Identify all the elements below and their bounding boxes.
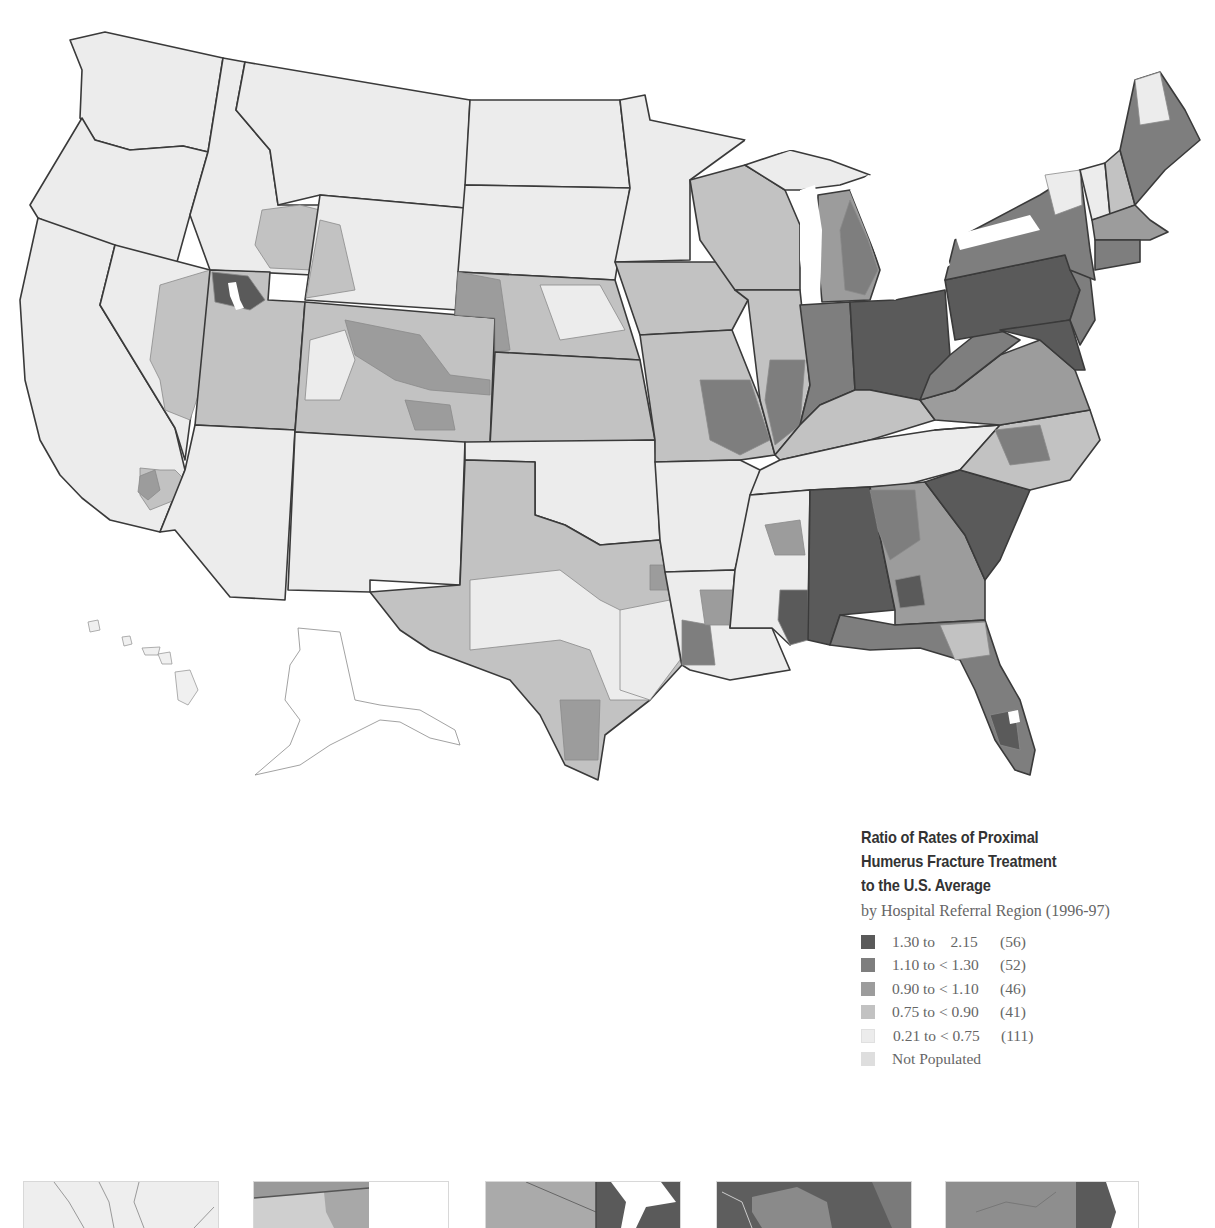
hawaii-island-4 [158, 652, 172, 664]
legend-swatch-icon [861, 982, 875, 996]
legend-class-5: 0.21 to < 0.75 (111) [861, 1024, 1161, 1048]
inset-panel-4 [716, 1181, 912, 1228]
region-shreveport [682, 620, 715, 665]
region-alexandria [700, 590, 735, 625]
inset-panel-5 [945, 1181, 1139, 1228]
legend-class-2: 1.10 to < 1.30 (52) [861, 954, 1161, 978]
legend-class-3: 0.90 to < 1.10 (46) [861, 977, 1161, 1001]
inset-panel-2 [253, 1181, 449, 1228]
hawaii-island-big [175, 670, 198, 705]
legend-range: 0.75 to < 0.90 [892, 1003, 1000, 1021]
state-new-mexico [288, 432, 465, 592]
region-macon [895, 575, 925, 608]
state-connecticut [1095, 240, 1140, 270]
legend-class-4: 0.75 to < 0.90 (41) [861, 1001, 1161, 1025]
inset-panel-3 [485, 1181, 681, 1228]
region-houston [620, 600, 680, 700]
inset-panel-1 [23, 1181, 219, 1228]
state-florida [830, 615, 1035, 775]
legend-title-line-2: Humerus Fracture Treatment [861, 850, 1119, 874]
hawaii-island-3 [142, 647, 160, 655]
contiguous-us [20, 32, 1200, 780]
legend-swatch-icon [861, 1005, 875, 1019]
state-north-dakota [465, 100, 630, 188]
map-legend: Ratio of Rates of Proximal Humerus Fract… [861, 826, 1161, 1071]
legend-swatch-icon [861, 1029, 875, 1043]
legend-count: (46) [1000, 980, 1026, 998]
hawaii-island-1 [88, 620, 100, 632]
hawaii-island-2 [122, 636, 132, 646]
state-washington [70, 32, 223, 152]
legend-range: 1.30 to 2.15 [892, 933, 1000, 951]
state-south-dakota [458, 185, 630, 280]
legend-count: (52) [1000, 956, 1026, 974]
legend-range: 0.90 to < 1.10 [892, 980, 1000, 998]
legend-count: (41) [1000, 1003, 1026, 1021]
region-harlingen [560, 700, 600, 760]
legend-range: 1.10 to < 1.30 [892, 956, 1000, 974]
legend-title-line-1: Ratio of Rates of Proximal [861, 826, 1119, 850]
legend-count: (56) [1000, 933, 1026, 951]
legend-range: 0.21 to < 0.75 [893, 1027, 1001, 1045]
lake-okeechobee [1008, 710, 1020, 724]
state-kansas [490, 352, 655, 445]
legend-swatch-icon [861, 935, 875, 949]
legend-swatch-icon [861, 1052, 875, 1066]
legend-swatch-icon [861, 958, 875, 972]
legend-subtitle: by Hospital Referral Region (1996-97) [861, 902, 1161, 920]
legend-class-not-populated: Not Populated [861, 1048, 1161, 1072]
choropleth-map [0, 0, 1215, 800]
legend-title-line-3: to the U.S. Average [861, 874, 1119, 898]
legend-class-1: 1.30 to 2.15 (56) [861, 930, 1161, 954]
hawaii-inset [88, 620, 198, 705]
legend-range: Not Populated [892, 1050, 1000, 1068]
legend-count: (111) [1001, 1027, 1033, 1045]
bottom-inset-maps [0, 1181, 1215, 1227]
